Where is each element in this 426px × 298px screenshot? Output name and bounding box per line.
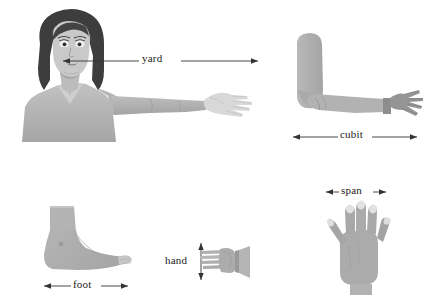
forearm-hand (390, 90, 423, 116)
foot-drawing (30, 204, 145, 276)
measure-label-yard: yard (142, 52, 162, 64)
open-hand-drawing (318, 200, 408, 295)
illustration-canvas: yard (0, 0, 426, 298)
yard-arrow (0, 52, 270, 72)
woman-extended-arm (112, 96, 206, 115)
measure-label-hand: hand (165, 254, 187, 266)
span-arrow (318, 184, 408, 200)
figure-forearm-cubit: cubit (285, 28, 426, 148)
figure-hand-span: span (318, 184, 408, 294)
figure-woman-yard: yard (0, 0, 270, 150)
figure-hand-width: hand (165, 238, 250, 286)
woman-open-hand (204, 93, 252, 117)
measure-label-foot: foot (73, 278, 92, 290)
measure-label-span: span (341, 184, 362, 196)
figure-foot: foot (30, 204, 145, 296)
woman-torso (22, 70, 128, 142)
measure-label-cubit: cubit (340, 128, 363, 140)
woman-arm-span-drawing (0, 0, 270, 150)
side-hand-drawing (199, 242, 251, 282)
